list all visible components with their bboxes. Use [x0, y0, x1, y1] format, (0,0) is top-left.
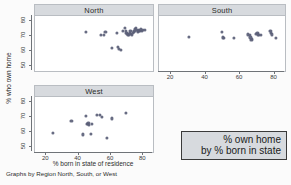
y-tick-label-north-70: 70 [20, 32, 26, 39]
x-tick-label-south-20: 20 [167, 74, 174, 80]
annotation-line-1: % own home [223, 134, 281, 146]
x-axis-title: % born in state of residence [53, 160, 134, 167]
data-point [220, 30, 223, 33]
data-point [81, 133, 84, 136]
stata-scatter-figure: % who own home North South West 50607080… [0, 0, 291, 185]
data-point [51, 131, 54, 134]
annotation-line-2: by % born in state [201, 145, 281, 157]
y-tick-label-north-60: 60 [20, 47, 26, 54]
y-tick-west-80 [29, 101, 32, 102]
annotation-box: % own home by % born in state [181, 131, 287, 160]
data-point [100, 116, 103, 119]
y-axis-line-north [31, 15, 32, 70]
panel-plot-west [34, 96, 154, 153]
x-tick-label-west-80: 80 [139, 155, 146, 161]
y-tick-label-north-50: 50 [20, 62, 26, 69]
y-tick-west-50 [29, 146, 32, 147]
data-point [70, 119, 73, 122]
y-tick-north-80 [29, 20, 32, 21]
data-point [124, 111, 127, 114]
data-point [84, 114, 87, 117]
data-point [143, 28, 146, 31]
panel-title-north: North [84, 6, 103, 15]
data-point [110, 46, 113, 49]
y-tick-label-north-80: 80 [20, 16, 26, 23]
data-point [90, 122, 93, 125]
data-point [110, 117, 113, 120]
y-tick-north-50 [29, 65, 32, 66]
y-tick-label-west-80: 80 [20, 97, 26, 104]
y-tick-label-west-70: 70 [20, 113, 26, 120]
y-tick-north-60 [29, 50, 32, 51]
data-point [188, 35, 191, 38]
data-point [232, 37, 235, 40]
data-point [104, 30, 107, 33]
x-axis-line-west [34, 152, 152, 153]
y-tick-west-70 [29, 116, 32, 117]
y-tick-label-west-60: 60 [20, 128, 26, 135]
panel-title-south: South [212, 6, 233, 15]
x-tick-label-south-80: 80 [270, 74, 277, 80]
data-point [105, 137, 108, 140]
data-point [119, 48, 122, 51]
data-point [84, 30, 87, 33]
panel-title-west: West [85, 87, 103, 96]
panel-plot-south [158, 15, 286, 72]
figure-note: Graphs by Region North, South, or West [6, 170, 117, 177]
x-tick-label-west-20: 20 [42, 155, 49, 161]
x-axis-line-south [158, 71, 284, 72]
data-point [251, 37, 254, 40]
data-point [89, 132, 92, 135]
data-point [270, 33, 273, 36]
y-axis-line-west [31, 96, 32, 151]
x-tick-label-south-60: 60 [236, 74, 243, 80]
data-point [259, 33, 262, 36]
data-point [274, 36, 277, 39]
panel-plot-north [34, 15, 154, 72]
y-axis-title: % who own home [5, 52, 12, 103]
data-point [115, 32, 118, 35]
y-tick-west-60 [29, 131, 32, 132]
data-point [102, 33, 105, 36]
y-tick-north-70 [29, 35, 32, 36]
x-tick-label-south-40: 40 [201, 74, 208, 80]
data-point [222, 36, 225, 39]
y-tick-label-west-50: 50 [20, 143, 26, 150]
